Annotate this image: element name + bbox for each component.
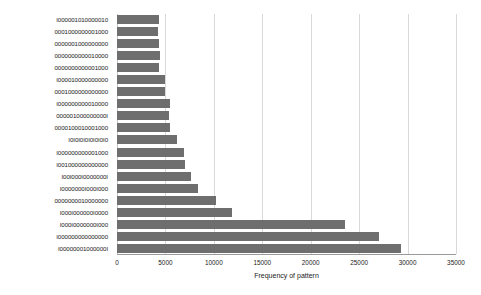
bar[interactable] [117,15,159,24]
bar[interactable] [117,75,165,84]
x-tick-label: 35000 [447,258,465,267]
x-axis-title: Frequency of pattern [117,272,456,279]
bar[interactable] [117,39,159,48]
x-tick-label: 0 [115,258,119,267]
bar-row [117,220,456,229]
category-label: 0000100010001000 [0,123,113,132]
bar-row [117,148,456,157]
plot-area [117,14,456,254]
bar[interactable] [117,27,158,36]
bar-row [117,184,456,193]
x-axis-line [117,254,456,255]
bar[interactable] [117,208,232,217]
category-label: I001000000000000 [0,160,113,169]
x-tick-label: 10000 [205,258,223,267]
category-label: I000I0000000I000 [0,220,113,229]
bar[interactable] [117,244,401,253]
bar[interactable] [117,87,165,96]
category-label: I000000000000000 [0,232,113,241]
bar-chart: I000001010000010000100000000100000000010… [0,0,481,295]
category-label: 0000001000000000 [0,39,113,48]
bar[interactable] [117,123,170,132]
bar[interactable] [117,99,170,108]
bar-row [117,160,456,169]
bar[interactable] [117,160,185,169]
category-label: 0000000000010000 [0,51,113,60]
bar-row [117,15,456,24]
bar-row [117,111,456,120]
category-label: I000000000010000 [0,99,113,108]
bar-row [117,244,456,253]
x-tick-label: 5000 [158,258,172,267]
bar[interactable] [117,196,216,205]
bar-row [117,208,456,217]
category-label: I00000001000000I [0,244,113,253]
bar[interactable] [117,232,379,241]
bar[interactable] [117,172,191,181]
bar-row [117,39,456,48]
bar-row [117,232,456,241]
bar-row [117,123,456,132]
bar-row [117,87,456,96]
bar-row [117,51,456,60]
category-label: I000001010000010 [0,15,113,24]
bar-row [117,172,456,181]
bar[interactable] [117,184,198,193]
bar-row [117,63,456,72]
category-label: I0I0I0I0I0I0I0I0 [0,135,113,144]
bar-row [117,99,456,108]
category-label: I000000000001000 [0,148,113,157]
category-label: I000010000000000 [0,75,113,84]
category-label: 0001000000000000 [0,87,113,96]
category-label: 0000000000001000 [0,63,113,72]
bar[interactable] [117,148,184,157]
category-label: 000001000000000I [0,111,113,120]
bar[interactable] [117,135,177,144]
bar[interactable] [117,220,345,229]
bar-row [117,196,456,205]
x-tick-label: 15000 [253,258,271,267]
bar[interactable] [117,63,159,72]
bar[interactable] [117,111,169,120]
category-label: 0000000010000000 [0,196,113,205]
x-tick-label: 20000 [302,258,320,267]
bar-rows [117,14,456,254]
x-tick-label: 30000 [399,258,417,267]
category-label: I000I000000I0000 [0,208,113,217]
category-labels: I000001010000010000100000000100000000010… [0,14,113,254]
bar-row [117,27,456,36]
x-tick-label: 25000 [350,258,368,267]
x-tick-labels: 05000100001500020000250003000035000 [117,258,456,270]
gridline [456,14,457,254]
category-label: I0000000I000I000 [0,184,113,193]
bar[interactable] [117,51,160,60]
category-label: I00I000I0000000I [0,172,113,181]
category-label: 0001000000001000 [0,27,113,36]
bar-row [117,135,456,144]
bar-row [117,75,456,84]
